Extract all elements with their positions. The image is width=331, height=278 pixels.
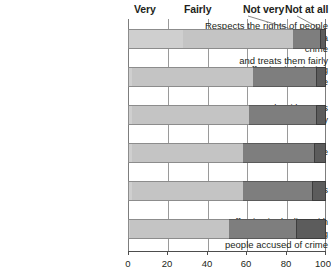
segment-not-at-all xyxy=(312,181,326,201)
chart-row: Deals with cases promptly and efficientl… xyxy=(0,95,328,133)
tick-label-60: 60 xyxy=(241,258,252,269)
segment-fairly xyxy=(132,181,243,201)
segment-not-at-all xyxy=(296,219,326,239)
tick-0 xyxy=(128,251,129,255)
x-axis xyxy=(128,251,326,252)
segment-fairly xyxy=(130,219,229,239)
segment-not-at-all xyxy=(314,143,326,163)
tick-100 xyxy=(325,251,326,255)
bar-stack xyxy=(128,181,326,201)
tick-label-0: 0 xyxy=(125,258,130,269)
chart-row: Effective in reducing crime xyxy=(0,133,328,171)
chart-row: Effective in dealing with young people a… xyxy=(0,209,328,247)
segment-not-at-all xyxy=(320,29,326,49)
segment-fairly xyxy=(183,29,293,49)
legend-label-very: Very xyxy=(134,3,156,15)
segment-not-very xyxy=(243,143,314,163)
bar-stack xyxy=(128,105,326,125)
tick-label-80: 80 xyxy=(281,258,292,269)
tick-60 xyxy=(246,251,247,255)
segment-not-very xyxy=(253,67,316,87)
tick-80 xyxy=(286,251,287,255)
segment-very xyxy=(128,29,183,49)
tick-20 xyxy=(167,251,168,255)
legend-label-not-very: Not very xyxy=(243,3,284,15)
segment-not-very xyxy=(243,181,312,201)
bar-stack xyxy=(128,67,326,87)
tick-label-40: 40 xyxy=(202,258,213,269)
tick-label-100: 100 xyxy=(315,258,331,269)
segment-not-very xyxy=(229,219,296,239)
segment-fairly xyxy=(132,67,253,87)
tick-40 xyxy=(207,251,208,255)
chart-row: Respects the rights of people accused of… xyxy=(0,19,328,57)
legend-label-fairly: Fairly xyxy=(184,3,211,15)
segment-fairly xyxy=(132,143,243,163)
segment-not-at-all xyxy=(316,67,326,87)
chart-row: Meets the needs of victims xyxy=(0,171,328,209)
segment-not-at-all xyxy=(316,105,326,125)
segment-not-very xyxy=(249,105,316,125)
segment-not-very xyxy=(293,29,320,49)
bar-stack xyxy=(128,143,326,163)
chart-row: Effective in bringing people to justice xyxy=(0,57,328,95)
tick-label-20: 20 xyxy=(162,258,173,269)
bar-stack xyxy=(128,219,326,239)
segment-fairly xyxy=(132,105,249,125)
legend-label-not-at-all: Not at all xyxy=(285,3,328,15)
bar-stack xyxy=(128,29,326,49)
